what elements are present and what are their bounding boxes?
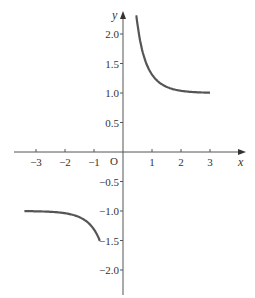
upper-branch-curve: [136, 16, 211, 92]
x-axis-label: x: [237, 155, 244, 169]
y-tick-label: −1.5: [99, 235, 119, 247]
y-tick-label: −2.0: [99, 264, 119, 276]
y-axis-arrow-icon: [120, 11, 126, 19]
y-tick-label: −1.0: [99, 205, 119, 217]
y-tick-label: 2.0: [105, 28, 119, 40]
x-tick-label: 3: [207, 156, 213, 168]
y-tick-label: 1.5: [105, 58, 119, 70]
function-graph: −3−2−1123 2.01.51.00.5−0.5−1.0−1.5−2.0 x…: [0, 0, 255, 298]
x-tick-label: −3: [30, 156, 42, 168]
x-tick-label: −1: [88, 156, 100, 168]
x-axis: [14, 149, 246, 155]
y-tick-label: 0.5: [105, 117, 119, 129]
x-tick-label: 1: [149, 156, 155, 168]
y-axis: [120, 11, 126, 295]
origin-label: O: [110, 155, 118, 167]
lower-branch-curve: [24, 211, 99, 241]
x-tick-label: 2: [178, 156, 184, 168]
x-tick-label: −2: [59, 156, 71, 168]
y-axis-label: y: [111, 8, 118, 22]
y-tick-label: 1.0: [105, 87, 119, 99]
y-tick-label: −0.5: [99, 176, 119, 188]
